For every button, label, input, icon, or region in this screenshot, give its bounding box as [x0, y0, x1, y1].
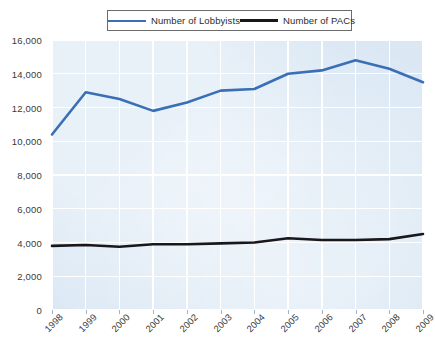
y-axis-tick-label: 0	[37, 305, 42, 316]
chart-legend: Number of Lobbyists Number of PACs	[107, 10, 352, 31]
x-axis-tick-label: 2001	[144, 312, 166, 334]
x-axis-tick	[86, 310, 87, 314]
y-axis-tick-label: 10,000	[12, 136, 42, 147]
x-axis-tick-label: 1998	[43, 312, 65, 334]
x-axis-tick	[221, 310, 222, 314]
y-axis-tick-label: 6,000	[17, 203, 42, 214]
x-axis-tick-label: 2007	[346, 312, 368, 334]
line-swatch-icon	[108, 20, 146, 22]
y-axis-tick-label: 4,000	[17, 237, 42, 248]
y-axis-tick-label: 12,000	[12, 102, 42, 113]
x-axis-tick	[389, 310, 390, 314]
legend-label-lobbyists: Number of Lobbyists	[151, 15, 240, 26]
series-layer	[52, 40, 423, 310]
x-axis-tick-label: 2002	[178, 312, 200, 334]
series-line-lobbyists	[52, 60, 423, 134]
legend-item-lobbyists[interactable]: Number of Lobbyists	[108, 15, 240, 26]
x-axis-tick-label: 2004	[245, 312, 267, 334]
x-axis-labels: 1998199920002001200220032004200520062007…	[52, 312, 423, 354]
x-axis-tick	[52, 310, 53, 314]
y-axis-labels: 02,0004,0006,0008,00010,00012,00014,0001…	[0, 40, 48, 310]
y-axis-tick-label: 2,000	[17, 271, 42, 282]
x-axis-tick	[288, 310, 289, 314]
legend-item-pacs[interactable]: Number of PACs	[240, 15, 355, 26]
x-axis-tick-label: 2003	[211, 312, 233, 334]
series-line-pacs	[52, 234, 423, 247]
x-axis-tick	[187, 310, 188, 314]
x-axis-tick-label: 1999	[77, 312, 99, 334]
x-axis-tick	[153, 310, 154, 314]
x-axis-tick	[356, 310, 357, 314]
x-axis-tick-label: 2009	[414, 312, 435, 334]
x-axis-tick	[119, 310, 120, 314]
line-chart: Number of Lobbyists Number of PACs 02,00…	[0, 0, 435, 355]
y-axis-tick-label: 8,000	[17, 170, 42, 181]
y-axis-tick-label: 14,000	[12, 68, 42, 79]
y-axis-tick-label: 16,000	[12, 35, 42, 46]
x-axis-tick	[254, 310, 255, 314]
line-swatch-icon	[240, 19, 278, 22]
plot-area	[52, 40, 423, 310]
x-axis-tick-label: 2000	[110, 312, 132, 334]
x-axis-tick-label: 2005	[279, 312, 301, 334]
x-axis-tick	[322, 310, 323, 314]
x-axis-tick-label: 2006	[313, 312, 335, 334]
x-axis-tick	[423, 310, 424, 314]
legend-label-pacs: Number of PACs	[283, 15, 355, 26]
x-axis-tick-label: 2008	[380, 312, 402, 334]
